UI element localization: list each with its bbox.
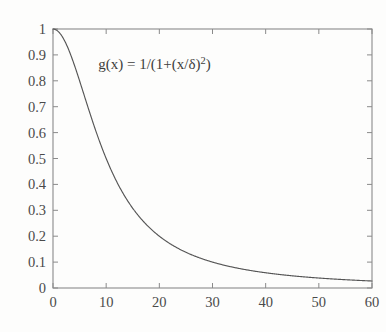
y-tick-label-1: 0.1 (28, 254, 46, 270)
annotation-tail: ) (206, 56, 211, 73)
annotation-main: g(x) = 1/(1+(x/δ) (98, 56, 200, 73)
x-tick-label-1: 10 (99, 294, 114, 310)
figure-page: 00.10.20.30.40.50.60.70.80.91 0102030405… (0, 0, 386, 332)
x-tick-label-4: 40 (258, 294, 273, 310)
y-tick-label-7: 0.7 (28, 99, 46, 115)
y-tick-label-6: 0.6 (28, 125, 46, 141)
chart-svg: 00.10.20.30.40.50.60.70.80.91 0102030405… (0, 0, 386, 332)
chart-background (0, 0, 386, 332)
y-tick-label-3: 0.3 (28, 202, 46, 218)
y-tick-label-9: 0.9 (28, 47, 46, 63)
x-tick-label-0: 0 (49, 294, 56, 310)
y-tick-label-10: 1 (39, 21, 46, 37)
y-tick-label-0: 0 (39, 280, 46, 296)
y-tick-label-5: 0.5 (28, 151, 46, 167)
x-tick-label-3: 30 (205, 294, 220, 310)
chart-figure: 00.10.20.30.40.50.60.70.80.91 0102030405… (0, 0, 386, 332)
y-tick-label-2: 0.2 (28, 228, 46, 244)
y-axis-tick-labels: 00.10.20.30.40.50.60.70.80.91 (28, 21, 47, 296)
x-tick-label-2: 20 (152, 294, 167, 310)
y-tick-label-4: 0.4 (28, 176, 47, 192)
x-tick-label-5: 50 (312, 294, 327, 310)
formula-annotation: g(x) = 1/(1+(x/δ)2) (98, 55, 211, 73)
x-tick-label-6: 60 (365, 294, 380, 310)
y-tick-label-8: 0.8 (28, 73, 46, 89)
